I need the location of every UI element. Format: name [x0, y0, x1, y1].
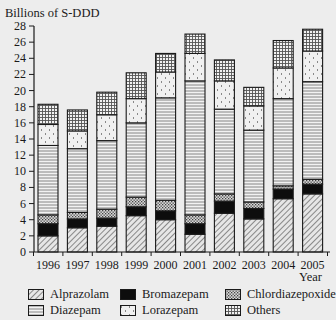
- bar-segment-bromazepam: [273, 189, 293, 199]
- bar-segment-bromazepam: [214, 201, 234, 213]
- bar-1998: [97, 92, 117, 252]
- bar-segment-bromazepam: [67, 219, 87, 228]
- x-tick-label: 1996: [36, 258, 60, 272]
- bar-segment-lorazepam: [67, 131, 87, 149]
- y-tick-label: 26: [14, 35, 26, 49]
- bar-segment-others: [156, 53, 176, 72]
- bar-segment-chlordiazepoxide: [185, 215, 205, 224]
- x-tick-label: 1998: [95, 258, 119, 272]
- y-tick-label: 20: [14, 84, 26, 98]
- x-tick-label: 2001: [183, 258, 207, 272]
- bar-segment-diazepam: [303, 82, 323, 180]
- bar-segment-alprazolam: [67, 228, 87, 252]
- diagonal-hatch-swatch-icon: [28, 289, 44, 300]
- bar-segment-chlordiazepoxide: [244, 202, 264, 208]
- grid-swatch-icon: [225, 305, 241, 316]
- bar-segment-others: [38, 104, 58, 124]
- legend-label: Chlordiazepoxide: [247, 287, 336, 302]
- horizontal-lines-swatch-icon: [28, 305, 44, 316]
- x-tick-label: 1997: [65, 258, 89, 272]
- x-tick-label: 2002: [212, 258, 236, 272]
- bar-2002: [214, 60, 234, 252]
- legend-label: Alprazolam: [50, 287, 109, 302]
- y-axis: 0246810121416182022242628: [14, 19, 34, 259]
- bar-segment-lorazepam: [303, 51, 323, 82]
- legend-label: Others: [247, 303, 280, 318]
- legend-item-diazepam: Diazepam: [28, 303, 120, 317]
- bar-segment-others: [97, 92, 117, 115]
- legend: AlprazolamBromazepamChlordiazepoxideDiaz…: [28, 287, 328, 317]
- bar-1996: [38, 104, 58, 252]
- bar-segment-diazepam: [156, 98, 176, 201]
- y-tick-label: 14: [14, 132, 26, 146]
- bar-segment-others: [185, 34, 205, 53]
- bar-segment-alprazolam: [303, 194, 323, 252]
- bar-segment-chlordiazepoxide: [156, 200, 176, 210]
- legend-label: Bromazepam: [142, 287, 209, 302]
- bar-segment-bromazepam: [126, 207, 146, 216]
- bar-segment-others: [303, 29, 323, 51]
- bar-segment-diazepam: [126, 123, 146, 197]
- bar-2000: [156, 53, 176, 252]
- bar-segment-alprazolam: [38, 236, 58, 252]
- bar-segment-alprazolam: [214, 213, 234, 252]
- y-tick-label: 28: [14, 19, 26, 33]
- bar-segment-others: [126, 73, 146, 99]
- bar-segment-chlordiazepoxide: [67, 212, 87, 218]
- legend-label: Lorazepam: [142, 303, 198, 318]
- bar-segment-alprazolam: [185, 234, 205, 252]
- sparse-dots-swatch-icon: [120, 305, 136, 316]
- y-tick-label: 12: [14, 148, 26, 162]
- legend-item-lorazepam: Lorazepam: [120, 303, 225, 317]
- bar-segment-diazepam: [38, 145, 58, 214]
- bar-segment-diazepam: [244, 130, 264, 202]
- y-tick-label: 16: [14, 116, 26, 130]
- bar-segment-alprazolam: [273, 199, 293, 252]
- legend-item-alprazolam: Alprazolam: [28, 287, 120, 301]
- legend-item-others: Others: [225, 303, 335, 317]
- x-axis: 1996199719981999200020012002200320042005: [34, 252, 331, 272]
- bar-segment-lorazepam: [38, 124, 58, 145]
- legend-label: Diazepam: [50, 303, 101, 318]
- y-axis-label: Billions of S-DDD: [5, 6, 99, 20]
- bar-segment-lorazepam: [97, 115, 117, 141]
- x-tick-label: 2003: [242, 258, 266, 272]
- y-tick-label: 8: [20, 180, 26, 194]
- bar-segment-alprazolam: [126, 216, 146, 252]
- y-tick-label: 24: [14, 51, 26, 65]
- y-tick-label: 18: [14, 100, 26, 114]
- bar-segment-diazepam: [67, 149, 87, 213]
- x-tick-label: 2000: [154, 258, 178, 272]
- bar-1999: [126, 73, 146, 252]
- bar-segment-diazepam: [273, 99, 293, 186]
- bar-2004: [273, 41, 293, 252]
- bar-segment-diazepam: [97, 141, 117, 210]
- bar-segment-others: [67, 110, 87, 131]
- bar-segment-chlordiazepoxide: [97, 209, 117, 218]
- y-tick-label: 0: [20, 245, 26, 259]
- solid-black-swatch-icon: [120, 289, 136, 300]
- bar-segment-alprazolam: [244, 219, 264, 252]
- bar-segment-chlordiazepoxide: [214, 194, 234, 201]
- y-tick-label: 4: [20, 213, 26, 227]
- y-tick-label: 6: [20, 197, 26, 211]
- bar-segment-chlordiazepoxide: [303, 179, 323, 184]
- bar-segment-diazepam: [185, 81, 205, 215]
- bar-segment-lorazepam: [156, 72, 176, 98]
- bar-2001: [185, 34, 205, 252]
- bar-segment-bromazepam: [156, 211, 176, 220]
- bar-segment-chlordiazepoxide: [38, 215, 58, 224]
- bar-segment-bromazepam: [244, 208, 264, 218]
- legend-item-bromazepam: Bromazepam: [120, 287, 225, 301]
- bar-segment-diazepam: [214, 109, 234, 194]
- y-tick-label: 10: [14, 164, 26, 178]
- bars-group: [38, 29, 323, 252]
- bar-segment-alprazolam: [97, 226, 117, 252]
- bar-segment-alprazolam: [156, 220, 176, 252]
- bar-2005: [303, 29, 323, 252]
- bar-segment-bromazepam: [185, 224, 205, 234]
- bar-segment-lorazepam: [214, 81, 234, 109]
- x-axis-label: Year: [299, 270, 323, 284]
- bar-segment-others: [244, 87, 264, 106]
